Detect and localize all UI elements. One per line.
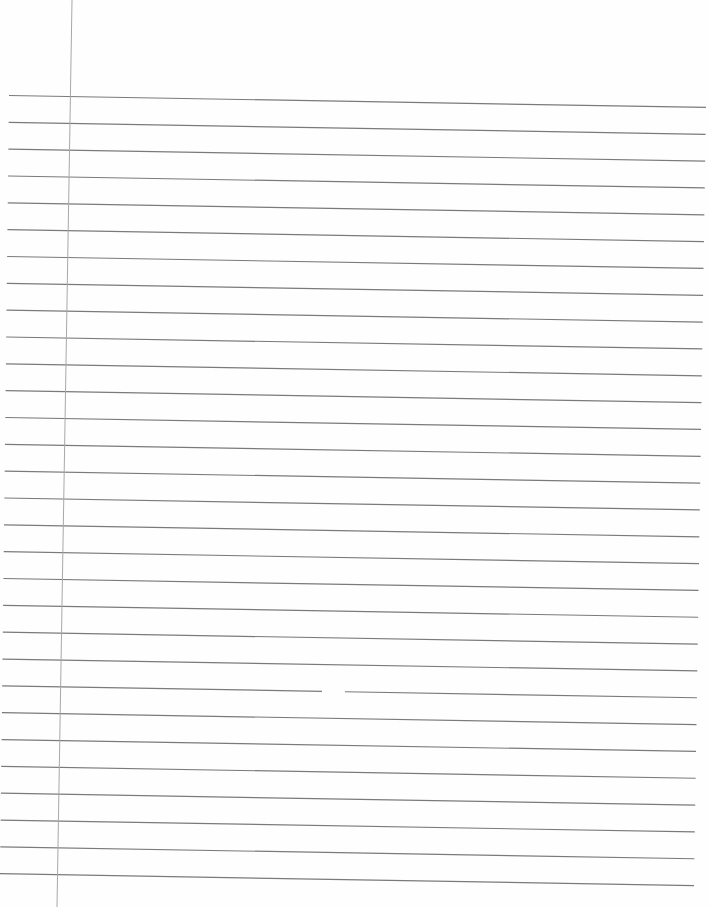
ruled-line <box>7 230 703 242</box>
ruled-lines <box>0 0 709 907</box>
ruled-line <box>0 847 694 859</box>
ruled-line <box>8 203 705 215</box>
ruled-line <box>3 605 698 617</box>
ruled-line <box>0 874 694 886</box>
lined-paper-sheet: Lined notebook paper <box>0 0 709 907</box>
ruled-line <box>6 391 702 403</box>
margin-line <box>57 0 72 907</box>
ruled-line <box>2 686 322 691</box>
ruled-line <box>7 310 703 322</box>
ruled-line <box>6 337 702 349</box>
ruled-line <box>8 176 705 188</box>
ruled-line <box>1 793 695 805</box>
ruled-line <box>2 659 697 671</box>
ruled-line <box>4 498 699 510</box>
ruled-line <box>1 766 695 778</box>
ruled-line <box>3 632 698 644</box>
ruled-line <box>1 820 695 832</box>
ruled-line <box>5 444 701 456</box>
ruled-line <box>7 257 703 269</box>
ruled-line <box>8 149 705 161</box>
ruled-line <box>5 471 701 483</box>
ruled-line <box>6 364 702 376</box>
ruled-line <box>3 579 698 591</box>
ruled-line <box>7 283 703 295</box>
ruled-line <box>4 552 699 564</box>
ruled-line <box>2 740 697 752</box>
ruled-line <box>2 713 697 725</box>
ruled-line <box>5 418 701 430</box>
ruled-line <box>9 96 706 108</box>
ruled-line <box>345 692 697 698</box>
ruled-line <box>4 525 699 537</box>
ruled-line <box>9 122 706 134</box>
